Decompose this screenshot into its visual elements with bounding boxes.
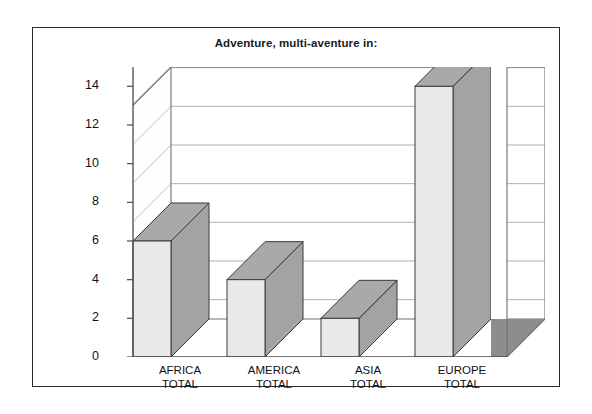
right-wall-fill	[491, 67, 507, 319]
y-tick-label-4: 4	[73, 272, 99, 286]
x-tick-label-line-2: TOTAL	[321, 378, 415, 392]
y-tick-label-12: 12	[73, 117, 99, 131]
x-tick-label-europe-total: EUROPE TOTAL	[415, 364, 509, 391]
y-tick-label-6: 6	[73, 233, 99, 247]
y-tick-label-14: 14	[73, 78, 99, 92]
x-axis-tick-labels: AFRICA TOTAL AMERICA TOTAL ASIA TOTAL EU…	[105, 358, 545, 406]
bar-europe-total[interactable]	[415, 67, 491, 357]
y-tick-label-8: 8	[73, 194, 99, 208]
chart-frame: Adventure, multi-aventure in: 14 12 10 8…	[32, 27, 560, 387]
bar-side-face	[453, 67, 491, 357]
bar-front-face	[227, 280, 265, 357]
y-tick-label-10: 10	[73, 156, 99, 170]
floor-right-shadow	[491, 319, 545, 357]
x-tick-label-america-total: AMERICA TOTAL	[227, 364, 321, 391]
bar-front-face	[415, 86, 453, 357]
x-tick-label-line-1: ASIA	[321, 364, 415, 378]
bar-front-face	[321, 318, 359, 357]
x-tick-label-line-1: AFRICA	[133, 364, 227, 378]
y-axis-tick-labels: 14 12 10 8 6 4 2 0	[65, 67, 99, 357]
y-axis-ticks	[127, 86, 133, 357]
y-tick-label-0: 0	[73, 349, 99, 363]
x-tick-label-asia-total: ASIA TOTAL	[321, 364, 415, 391]
x-tick-label-line-1: AMERICA	[227, 364, 321, 378]
x-tick-label-africa-total: AFRICA TOTAL	[133, 364, 227, 391]
x-tick-label-line-1: EUROPE	[415, 364, 509, 378]
plot-area	[105, 67, 545, 357]
bar-chart-3d	[105, 67, 545, 357]
x-tick-label-line-2: TOTAL	[227, 378, 321, 392]
x-tick-label-line-2: TOTAL	[415, 378, 509, 392]
chart-title: Adventure, multi-aventure in:	[33, 37, 559, 49]
y-tick-label-2: 2	[73, 310, 99, 324]
bar-front-face	[133, 241, 171, 357]
x-tick-label-line-2: TOTAL	[133, 378, 227, 392]
